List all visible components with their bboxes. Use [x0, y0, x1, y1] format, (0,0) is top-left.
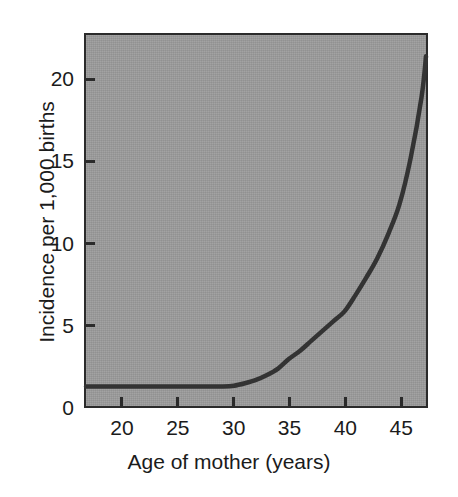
x-tick-label-20: 20 — [92, 416, 152, 440]
x-tick-45 — [400, 397, 403, 408]
plot-area — [84, 33, 428, 408]
x-tick-25 — [176, 397, 179, 408]
y-tick-10 — [84, 242, 95, 245]
y-tick-20 — [84, 78, 95, 81]
x-tick-20 — [120, 397, 123, 408]
y-tick-5 — [84, 324, 95, 327]
x-tick-label-45: 45 — [371, 416, 431, 440]
x-tick-label-35: 35 — [260, 416, 320, 440]
x-tick-30 — [232, 397, 235, 408]
incidence-by-maternal-age-chart: 05101520202530354045 Incidence per 1,000… — [0, 0, 458, 497]
x-tick-label-30: 30 — [204, 416, 264, 440]
x-axis-title: Age of mother (years) — [0, 450, 458, 474]
x-tick-label-40: 40 — [315, 416, 375, 440]
incidence-curve-path — [86, 56, 426, 386]
x-tick-35 — [288, 397, 291, 408]
incidence-curve — [86, 35, 426, 406]
x-tick-40 — [344, 397, 347, 408]
y-axis-title: Incidence per 1,000 births — [35, 42, 59, 402]
y-tick-15 — [84, 160, 95, 163]
x-tick-label-25: 25 — [148, 416, 208, 440]
